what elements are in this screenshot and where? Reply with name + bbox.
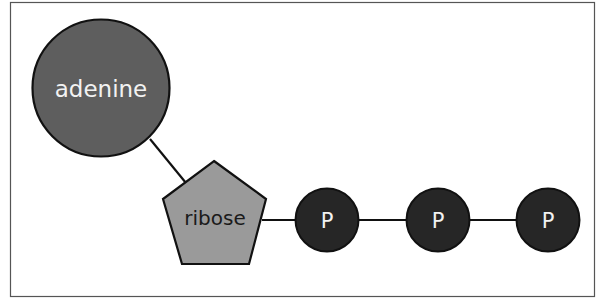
node-adenine: adenine [33, 20, 170, 157]
node-phosphate-3: P [517, 189, 580, 252]
node-phosphate-1: P [296, 189, 359, 252]
atp-diagram: adenine ribose P P P [0, 0, 603, 306]
node-phosphate-2: P [407, 189, 470, 252]
node-ribose: ribose [163, 161, 266, 264]
phosphate-1-label: P [321, 209, 334, 233]
adenine-label: adenine [55, 76, 148, 102]
phosphate-2-label: P [432, 209, 445, 233]
ribose-label: ribose [184, 206, 245, 230]
phosphate-3-label: P [542, 209, 555, 233]
edge-adenine-ribose [150, 139, 186, 183]
